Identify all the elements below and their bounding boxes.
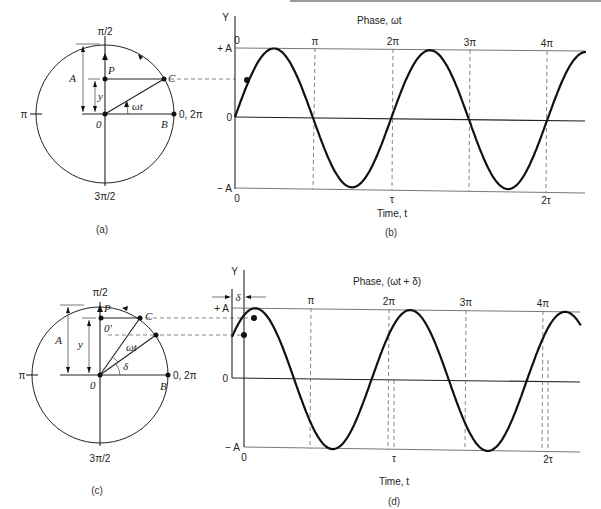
point-B (172, 112, 177, 117)
label-pi: π (19, 370, 26, 381)
label-A: A (54, 334, 62, 346)
label-zero-2pi: 0, 2π (179, 109, 203, 120)
omega-t-arc (112, 357, 118, 362)
phase-gridline-2pi (392, 49, 393, 190)
point-B (166, 373, 171, 378)
phase-tick-pi: π (312, 36, 319, 47)
phasor-point (244, 77, 250, 83)
label-pi-half: π/2 (97, 26, 113, 37)
label-omega-t: ωt (132, 100, 144, 112)
label-pi: π (21, 109, 28, 120)
phase-gridline-3pi (465, 310, 466, 451)
arrow-down-icon (93, 106, 97, 112)
zero-label: 0 (222, 373, 228, 384)
arrow-up-icon (97, 305, 103, 312)
time-tick-tau: τ (390, 194, 394, 205)
minus-a-line (235, 188, 585, 193)
arrow-down-icon (87, 367, 91, 373)
caption-d: (d) (388, 496, 400, 507)
caption-b: (b) (385, 227, 397, 238)
label-origin-prime: 0′ (104, 322, 113, 334)
arrow-up-icon (93, 81, 97, 87)
figure-canvas: π/2 3π/2 π 0, 2π P C B 0 A y ωt (a) Y Ph… (0, 0, 601, 509)
arrow-left-icon (245, 295, 251, 299)
time-tick-0: 0 (234, 193, 240, 204)
zero-label: 0 (226, 112, 232, 123)
zero-line (235, 117, 585, 121)
time-tick-0: 0 (241, 452, 247, 463)
point-P (103, 77, 108, 82)
label-A: A (68, 72, 76, 84)
time-tick-tau: τ (392, 453, 396, 464)
phase-tick-0: 0 (234, 35, 240, 46)
label-y: y (97, 90, 103, 102)
delta-label: δ (235, 291, 241, 303)
point-P (99, 316, 104, 321)
label-omega-t: ωt (126, 341, 138, 353)
label-B: B (161, 118, 168, 130)
minus-a-line (244, 447, 580, 452)
label-y: y (77, 338, 83, 350)
label-C: C (145, 310, 153, 322)
label-3pi-half: 3π/2 (95, 191, 116, 202)
phase-tick-pi: π (308, 295, 315, 306)
phase-tick-4pi: 4π (537, 298, 550, 309)
origin-point (98, 373, 103, 378)
phase-gridline-pi (310, 308, 311, 449)
arrow-down-icon (81, 106, 85, 112)
delta-arc (116, 364, 120, 375)
arrow-up-icon (66, 307, 70, 313)
time-axis-label: Time, t (379, 476, 409, 487)
arrow-right-icon (225, 295, 231, 299)
panel-c-phasor-circle: π/2 3π/2 π 0, 2π P C B 0 0′ A y ωt δ (c) (19, 287, 252, 496)
time-tick-2tau: 2τ (543, 454, 553, 465)
phase-gridline-2pi (388, 309, 389, 450)
arrow-up-icon (87, 320, 91, 326)
label-C: C (168, 72, 176, 84)
caption-c: (c) (91, 485, 103, 496)
phase-tick-3pi: 3π (464, 37, 477, 48)
phase-gridline-4pi (542, 311, 543, 452)
y-axis-label: Y (222, 12, 229, 23)
phase-title: Phase, (ωt + δ) (353, 276, 421, 287)
time-tick-2tau: 2τ (541, 195, 551, 206)
label-P: P (103, 302, 111, 314)
phase-tick-4pi: 4π (541, 38, 554, 49)
plus-a-label: + A (217, 43, 232, 54)
point-C (138, 316, 143, 321)
origin-point (103, 112, 108, 117)
label-B: B (160, 380, 167, 392)
label-delta: δ (123, 360, 129, 372)
plus-a-label: + A (214, 303, 229, 314)
phasor-point-delta (241, 332, 247, 338)
phase-tick-3pi: 3π (460, 297, 473, 308)
label-origin: 0 (90, 379, 96, 391)
caption-a: (a) (96, 224, 108, 235)
time-axis-label: Time, t (377, 208, 407, 219)
panel-a-phasor-circle: π/2 3π/2 π 0, 2π P C B 0 A y ωt (a) (21, 26, 235, 235)
label-zero-2pi: 0, 2π (173, 370, 197, 381)
phase-tick-2pi: 2π (383, 296, 396, 307)
minus-a-label: − A (225, 442, 240, 453)
y-axis-label: Y (231, 266, 238, 277)
phase-title: Phase, ωt (357, 15, 402, 26)
arrow-down-icon (66, 367, 70, 373)
arrow-up-icon (102, 53, 108, 60)
label-3pi-half: 3π/2 (90, 453, 111, 464)
label-pi-half: π/2 (92, 287, 108, 298)
rotation-arrow-icon (122, 306, 128, 311)
point-delta (154, 333, 159, 338)
panel-d-sine-plot: Y δ Phase, (ωt + δ) π 2π 3π 4π + A 0 − A… (212, 266, 581, 507)
plus-a-line (235, 48, 585, 51)
phase-tick-2pi: 2π (387, 36, 400, 47)
phasor-point-C (251, 315, 257, 321)
panel-b-sine-plot: Y Phase, ωt 0 π 2π 3π 4π + A 0 − A 0 τ 2… (217, 12, 586, 238)
point-C (162, 77, 167, 82)
minus-a-label: − A (217, 183, 232, 194)
label-P: P (107, 64, 115, 76)
label-origin: 0 (96, 118, 102, 130)
